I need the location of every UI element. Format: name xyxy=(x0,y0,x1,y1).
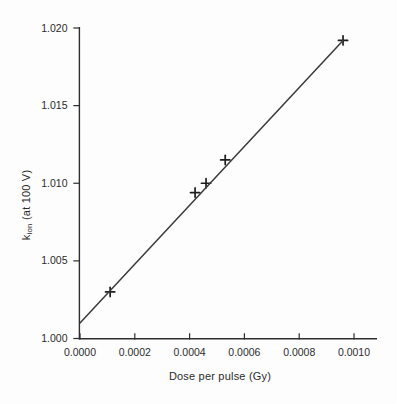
y-tick-label: 1.000 xyxy=(41,332,67,344)
y-tick-label: 1.005 xyxy=(41,254,67,266)
scanned-chart-page: 0.00000.00020.00040.00060.00080.00101.00… xyxy=(0,0,397,404)
y-axis-title-rest: (at 100 V) xyxy=(20,170,32,224)
kion-vs-dose-chart: 0.00000.00020.00040.00060.00080.00101.00… xyxy=(0,0,397,404)
x-tick-label: 0.0010 xyxy=(338,346,370,358)
y-tick-label: 1.010 xyxy=(41,177,67,189)
x-tick-label: 0.0002 xyxy=(119,346,151,358)
y-axis-title-base: k xyxy=(20,235,32,241)
x-tick-label: 0.0000 xyxy=(64,346,96,358)
y-axis-title-subscript: ion xyxy=(25,223,34,234)
x-tick-label: 0.0004 xyxy=(174,346,206,358)
x-tick-label: 0.0006 xyxy=(228,346,260,358)
y-axis-title: kion (at 100 V) xyxy=(20,125,36,285)
x-tick-label: 0.0008 xyxy=(283,346,315,358)
x-axis-title: Dose per pulse (Gy) xyxy=(80,370,360,382)
fit-line xyxy=(80,40,343,323)
y-tick-label: 1.015 xyxy=(41,99,67,111)
y-tick-label: 1.020 xyxy=(41,22,67,34)
